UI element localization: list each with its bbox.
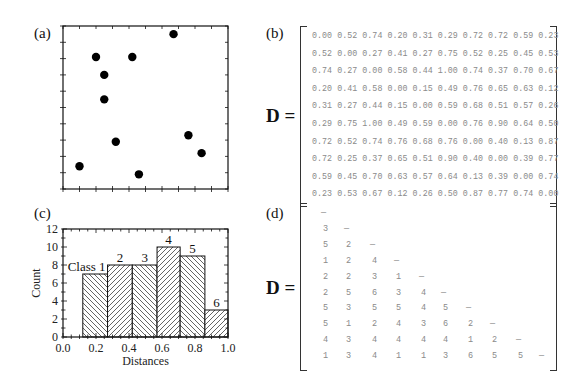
y-tick-label: 4 (52, 294, 58, 308)
diagonal-dash: — (466, 303, 471, 313)
y-tick-label: 2 (52, 312, 58, 326)
matrix-cell: 2 (372, 319, 377, 329)
matrix-cell: 2 (323, 288, 328, 298)
matrix-cell: 5 (346, 288, 351, 298)
matrix-cell: 4 (372, 335, 377, 345)
matrix-cell: 3 (443, 351, 448, 361)
x-tick-label: 0.4 (122, 341, 137, 355)
diagonal-dash: — (516, 335, 521, 345)
matrix-cell: 1 (421, 351, 426, 361)
matrix-cell: 4 (323, 335, 328, 345)
class-label: 5 (189, 241, 196, 256)
y-tick-label: 10 (46, 240, 58, 254)
matrix-label-d: D = (266, 277, 295, 299)
matrix-cell: 5 (323, 240, 328, 250)
class-label: 4 (165, 232, 172, 247)
matrix-cell: 3 (346, 351, 351, 361)
x-tick-label: 0.8 (188, 341, 203, 355)
scatter-points (75, 30, 206, 179)
data-point (112, 138, 120, 146)
diagonal-dash: — (490, 319, 495, 329)
matrix-cell: 2 (323, 272, 328, 282)
histogram-bars: Class 123456 (68, 232, 228, 337)
diagonal-dash: — (370, 240, 375, 250)
matrix-cell: 4 (396, 335, 401, 345)
right-bracket (550, 203, 557, 371)
x-tick-label: 0.6 (155, 341, 170, 355)
data-point (135, 170, 143, 178)
data-point (169, 30, 177, 38)
distance-matrix: 0.00 0.52 0.74 0.20 0.31 0.29 0.72 0.72 … (300, 26, 557, 207)
matrix-cell: 2 (468, 319, 473, 329)
class-matrix: —3—52—124—2231—25634—535545—5124362—4344… (300, 203, 557, 371)
matrix-cell: 4 (396, 319, 401, 329)
matrix-row: 0.52 0.00 0.27 0.41 0.27 0.75 0.52 0.25 … (312, 49, 558, 58)
matrix-row: 0.23 0.53 0.67 0.12 0.26 0.50 0.87 0.77 … (312, 189, 558, 198)
matrix-cell: 5 (396, 303, 401, 313)
left-bracket (300, 26, 307, 207)
y-tick-label: 6 (52, 276, 58, 290)
matrix-cell: 5 (518, 351, 523, 361)
histogram-bar (132, 265, 157, 337)
class-label: 6 (213, 295, 220, 310)
histogram-bar (108, 265, 133, 337)
matrix-cell: 3 (372, 272, 377, 282)
histogram-bar (205, 310, 228, 337)
matrix-cell: 3 (346, 335, 351, 345)
data-point (100, 71, 108, 79)
matrix-cell: 4 (421, 335, 426, 345)
histogram-chart: Class 123456 0.00.20.40.60.81.0024681012… (0, 195, 250, 383)
x-tick-label: 1.0 (221, 341, 236, 355)
histogram-bar (157, 247, 180, 337)
matrix-row: 0.72 0.52 0.74 0.76 0.68 0.76 0.00 0.40 … (312, 137, 558, 146)
data-point (100, 95, 108, 103)
diagonal-dash: — (394, 256, 399, 266)
x-axis-label: Distances (122, 354, 169, 368)
matrix-cell: 1 (468, 335, 473, 345)
histogram-bar (83, 274, 108, 337)
y-tick-label: 0 (52, 330, 58, 344)
data-point (197, 149, 205, 157)
matrix-cell: 1 (323, 351, 328, 361)
diagonal-dash: — (344, 224, 349, 234)
matrix-row: 0.00 0.52 0.74 0.20 0.31 0.29 0.72 0.72 … (312, 31, 558, 40)
scatter-frame (60, 26, 228, 192)
left-bracket (300, 203, 307, 371)
class-label: Class 1 (68, 259, 106, 274)
x-tick-label: 0.2 (89, 341, 104, 355)
class-label: 3 (141, 250, 148, 265)
matrix-row: 0.31 0.27 0.44 0.15 0.00 0.59 0.68 0.51 … (312, 101, 558, 110)
matrix-cell: 5 (372, 303, 377, 313)
matrix-cell: 5 (323, 303, 328, 313)
data-point (75, 162, 83, 170)
matrix-cell: 2 (346, 272, 351, 282)
matrix-row: 0.74 0.27 0.00 0.58 0.44 1.00 0.74 0.37 … (312, 66, 558, 75)
matrix-cell: 2 (492, 335, 497, 345)
matrix-row: 0.29 0.75 1.00 0.49 0.59 0.00 0.76 0.90 … (312, 119, 558, 128)
matrix-cell: 3 (346, 303, 351, 313)
diagonal-dash: — (539, 351, 544, 361)
matrix-label-b: D = (266, 105, 295, 127)
matrix-cell: 4 (372, 351, 377, 361)
matrix-cell: 5 (492, 351, 497, 361)
matrix-cell: 4 (421, 288, 426, 298)
matrix-cell: 6 (372, 288, 377, 298)
matrix-cell: 6 (443, 319, 448, 329)
data-point (184, 131, 192, 139)
matrix-cell: 5 (323, 319, 328, 329)
matrix-cell: 1 (396, 351, 401, 361)
matrix-cell: 3 (323, 224, 328, 234)
matrix-cell: 3 (421, 319, 426, 329)
matrix-cell: 6 (468, 351, 473, 361)
y-tick-label: 8 (52, 258, 58, 272)
matrix-cell: 1 (396, 272, 401, 282)
data-point (128, 53, 136, 61)
y-tick-label: 12 (46, 222, 58, 236)
matrix-cell: 1 (323, 256, 328, 266)
panel-label-b: (b) (266, 25, 284, 42)
histogram-bar (180, 256, 205, 337)
matrix-cell: 5 (443, 303, 448, 313)
scatter-plot (0, 0, 250, 200)
data-point (92, 53, 100, 61)
matrix-row: 0.72 0.25 0.37 0.65 0.51 0.90 0.40 0.00 … (312, 154, 558, 163)
